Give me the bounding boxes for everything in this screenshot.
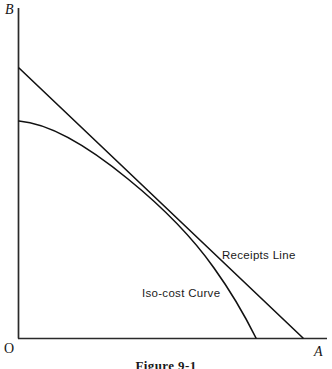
y-axis-label: B xyxy=(5,2,14,17)
x-axis-label: A xyxy=(313,344,323,359)
economics-plot: B O A Receipts Line Iso-cost Curve xyxy=(0,0,332,369)
figure-caption: Figure 9-1 xyxy=(0,358,332,369)
iso-cost-curve xyxy=(19,121,256,338)
iso-cost-curve-label: Iso-cost Curve xyxy=(142,287,220,299)
figure-container: B O A Receipts Line Iso-cost Curve Figur… xyxy=(0,0,332,369)
receipts-line-label: Receipts Line xyxy=(222,249,296,261)
origin-label: O xyxy=(4,341,14,356)
